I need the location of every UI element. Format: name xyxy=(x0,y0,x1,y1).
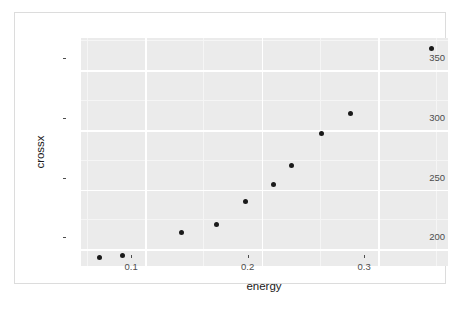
grid-line-minor-horizontal xyxy=(81,219,448,220)
grid-line-major-vertical xyxy=(145,38,147,266)
y-tick-label: 350 xyxy=(402,53,445,63)
y-tick-label: 200 xyxy=(402,232,445,242)
grid-line-major-vertical xyxy=(262,38,264,266)
scatter-point xyxy=(348,111,353,116)
scatter-point xyxy=(120,253,125,258)
x-tick-label: 0.2 xyxy=(241,262,254,272)
grid-line-major-horizontal xyxy=(81,130,448,132)
plot-panel xyxy=(81,38,448,266)
grid-line-major-horizontal xyxy=(81,249,448,251)
y-tick-label: 250 xyxy=(402,173,445,183)
grid-line-minor-horizontal xyxy=(81,100,448,101)
grid-line-major-horizontal xyxy=(81,190,448,192)
y-tick-mark xyxy=(63,178,66,179)
chart-figure: 200250300350 0.10.20.3 crossx energy xyxy=(0,0,461,313)
x-tick-mark xyxy=(131,255,132,258)
grid-line-minor-vertical xyxy=(203,38,204,266)
y-tick-mark xyxy=(63,237,66,238)
x-tick-mark xyxy=(248,255,249,258)
grid-line-major-horizontal xyxy=(81,70,448,72)
y-axis-title: crossx xyxy=(35,135,47,168)
x-axis-title: energy xyxy=(246,281,281,293)
scatter-point xyxy=(179,230,184,235)
x-tick-mark xyxy=(364,255,365,258)
scatter-point xyxy=(243,199,248,204)
grid-line-minor-horizontal xyxy=(81,160,448,161)
x-tick-label: 0.1 xyxy=(124,262,137,272)
grid-line-major-vertical xyxy=(378,38,380,266)
y-tick-label: 300 xyxy=(402,113,445,123)
grid-line-minor-horizontal xyxy=(81,40,448,41)
y-tick-mark xyxy=(63,58,66,59)
scatter-point xyxy=(429,46,434,51)
scatter-point xyxy=(97,255,102,260)
x-tick-label: 0.3 xyxy=(357,262,370,272)
chart-card: 200250300350 0.10.20.3 crossx energy xyxy=(14,12,446,284)
scatter-point xyxy=(214,222,219,227)
y-tick-mark xyxy=(63,118,66,119)
grid-line-minor-vertical xyxy=(320,38,321,266)
scatter-point xyxy=(271,182,276,187)
scatter-point xyxy=(289,163,294,168)
grid-line-minor-vertical xyxy=(87,38,88,266)
scatter-point xyxy=(319,131,324,136)
